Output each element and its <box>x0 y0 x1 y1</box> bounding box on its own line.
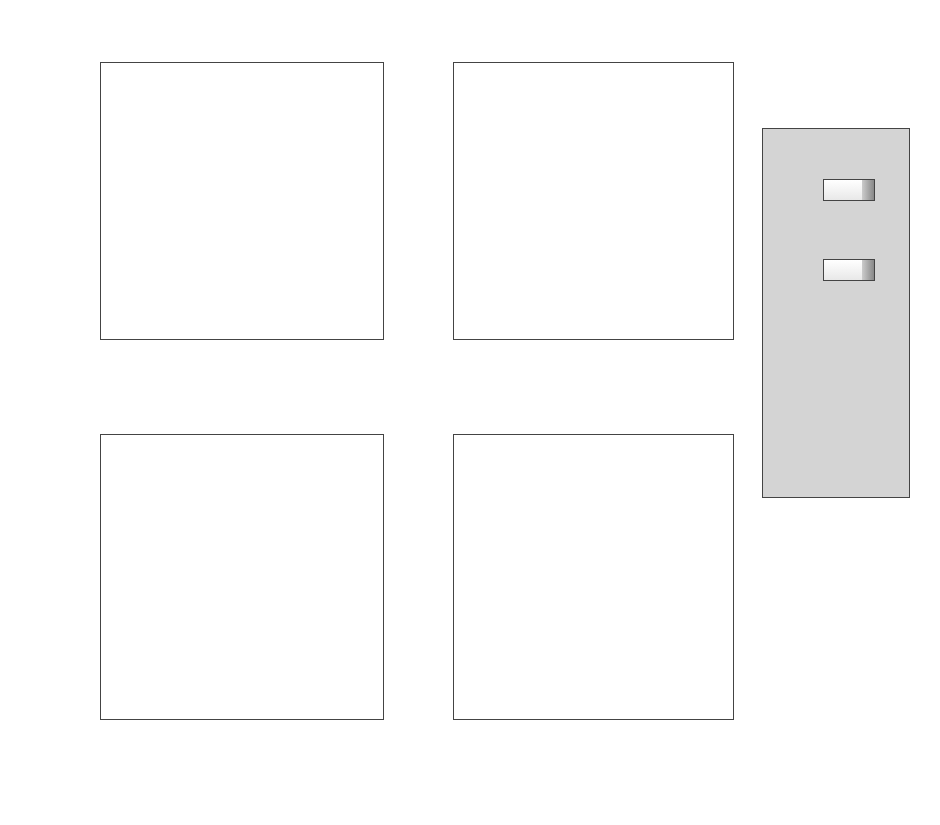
chevron-down-icon <box>862 260 874 280</box>
settings-panel <box>762 128 910 498</box>
scatter-frequency <box>100 62 384 340</box>
chevron-down-icon <box>862 180 874 200</box>
scatter-frequency-window <box>100 434 384 720</box>
scatter-time-window <box>453 434 734 720</box>
sections-dropdown[interactable] <box>823 179 875 201</box>
periods-dropdown[interactable] <box>823 259 875 281</box>
scatter-time <box>453 62 734 340</box>
